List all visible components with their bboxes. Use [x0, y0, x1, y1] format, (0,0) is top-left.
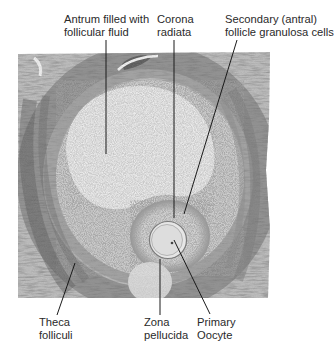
label-theca-folliculi: Thecafolliculi	[39, 316, 73, 342]
label-zona-line2: pellucida	[144, 329, 188, 341]
label-corona-line1: Corona	[157, 13, 194, 25]
label-corona-radiata: Coronaradiata	[157, 13, 194, 39]
label-antrum-line2: follicular fluid	[64, 26, 129, 38]
label-theca-line1: Theca	[39, 316, 70, 328]
label-primary-line2: Oocyte	[197, 329, 232, 341]
label-zona-pellucida: Zonapellucida	[144, 316, 188, 342]
label-granulosa-cells: Secondary (antral)follicle granulosa cel…	[225, 13, 334, 39]
label-secondary-line2: follicle granulosa cells	[225, 26, 334, 38]
label-primary-oocyte: PrimaryOocyte	[197, 316, 236, 342]
label-corona-line2: radiata	[157, 26, 191, 38]
oocyte	[150, 222, 187, 259]
label-primary-line1: Primary	[197, 316, 236, 328]
label-secondary-line1: Secondary (antral)	[225, 13, 317, 25]
label-antrum-line1: Antrum filled with	[64, 13, 149, 25]
label-theca-line2: folliculi	[39, 329, 73, 341]
label-zona-line1: Zona	[144, 316, 170, 328]
label-antrum: Antrum filled withfollicular fluid	[64, 13, 149, 39]
